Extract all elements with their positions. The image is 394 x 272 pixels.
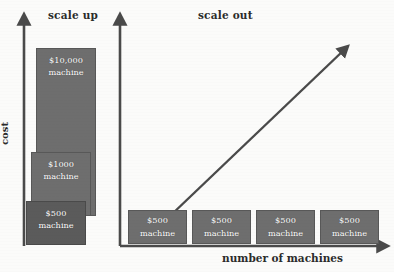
machine-price: $500 <box>211 215 232 227</box>
machine-price: $500 <box>147 215 168 227</box>
machine-word: machine <box>332 228 367 240</box>
machine-word: machine <box>268 228 303 240</box>
machine-price: $1000 <box>48 159 74 171</box>
cost-axis-label: cost <box>0 122 10 145</box>
machine-word: machine <box>43 171 78 183</box>
machine-price: $500 <box>339 215 360 227</box>
machine-box-500-scale-up: $500 machine <box>26 201 86 245</box>
machine-word: machine <box>48 67 83 79</box>
scale-out-title: scale out <box>198 9 253 21</box>
machine-box-500-out-2: $500 machine <box>192 210 251 244</box>
machine-word: machine <box>204 228 239 240</box>
machine-price: $500 <box>46 208 67 220</box>
machine-word: machine <box>140 228 175 240</box>
machine-word: machine <box>38 220 73 232</box>
machine-box-500-out-1: $500 machine <box>128 210 187 244</box>
scale-up-title: scale up <box>48 9 98 21</box>
machine-box-500-out-3: $500 machine <box>256 210 315 244</box>
diagram-canvas: scale up scale out cost number of machin… <box>0 0 394 272</box>
scale-out-trend-arrow <box>170 50 344 216</box>
machine-price: $10,000 <box>49 55 83 67</box>
machine-price: $500 <box>275 215 296 227</box>
machine-box-500-out-4: $500 machine <box>320 210 379 244</box>
number-of-machines-axis-label: number of machines <box>222 252 343 264</box>
